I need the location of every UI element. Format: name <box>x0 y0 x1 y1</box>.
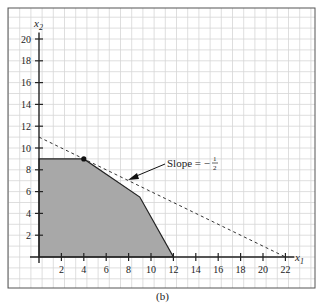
x-tick-label: 6 <box>104 264 109 275</box>
y-tick-label: 16 <box>21 77 31 88</box>
y-tick-label: 12 <box>21 121 31 132</box>
x-tick-label: 10 <box>146 264 156 275</box>
y-tick-label: 10 <box>21 143 31 154</box>
x-tick-label: 16 <box>213 264 223 275</box>
optimal-point-marker <box>81 156 86 161</box>
x-tick-label: 14 <box>191 264 201 275</box>
chart-canvas: 246810121416182022 2468101214161820 x2 x… <box>0 0 329 307</box>
y-tick-label: 6 <box>26 186 31 197</box>
slope-annotation: Slope = − <box>167 157 210 169</box>
x-tick-label: 22 <box>280 264 290 275</box>
x-tick-label: 18 <box>236 264 246 275</box>
y-tick-label: 14 <box>21 99 31 110</box>
feasible-region <box>39 159 173 257</box>
x-tick-label: 8 <box>126 264 131 275</box>
slope-fraction-denominator: 2 <box>213 164 217 172</box>
y-tick-label: 20 <box>21 34 31 45</box>
y-tick-label: 8 <box>26 164 31 175</box>
y-tick-label: 18 <box>21 55 31 66</box>
slope-fraction-numerator: 1 <box>213 155 217 163</box>
y-tick-label: 2 <box>26 230 31 241</box>
x-tick-label: 4 <box>81 264 86 275</box>
x-tick-label: 2 <box>59 264 64 275</box>
y-tick-label: 4 <box>26 208 31 219</box>
x-tick-label: 12 <box>168 264 178 275</box>
y-axis-label: x2 <box>33 17 43 32</box>
arrowhead-icon <box>128 173 139 180</box>
figure-caption: (b) <box>156 290 169 303</box>
x-tick-label: 20 <box>258 264 268 275</box>
x-axis-label: x1 <box>294 251 304 266</box>
annotation-arrow-line <box>134 164 165 177</box>
